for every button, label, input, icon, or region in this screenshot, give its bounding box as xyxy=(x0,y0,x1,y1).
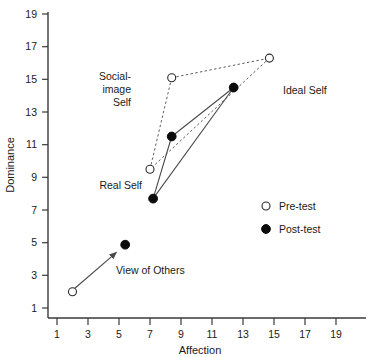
axis-lines xyxy=(48,12,366,318)
x-axis-tick-labels: 1 3 5 7 9 11 13 15 17 19 xyxy=(54,328,342,340)
label-view-of-others: View of Others xyxy=(116,264,185,276)
post-test-markers[interactable] xyxy=(121,83,238,249)
marker-pre-real-self[interactable] xyxy=(146,165,154,173)
marker-post-ideal-self[interactable] xyxy=(229,83,238,92)
x-axis-title: Affection xyxy=(179,344,222,356)
pre-line-real-to-social xyxy=(150,78,172,170)
legend-item-pre-test[interactable]: Pre-test xyxy=(262,200,316,212)
y-tick-label-1: 1 xyxy=(31,302,37,314)
x-tick-label-17: 17 xyxy=(299,328,311,340)
label-social-image-self-line3: Self xyxy=(113,96,131,108)
y-tick-label-3: 3 xyxy=(31,269,37,281)
y-tick-label-11: 11 xyxy=(26,138,37,150)
x-tick-label-5: 5 xyxy=(116,328,122,340)
label-social-image-self-line1: Social- xyxy=(99,70,132,82)
y-tick-label-5: 5 xyxy=(31,236,37,248)
x-tick-label-1: 1 xyxy=(54,328,60,340)
x-axis-ticks xyxy=(57,318,336,325)
y-axis-ticks xyxy=(42,14,48,308)
label-real-self: Real Self xyxy=(99,179,142,191)
point-annotations: Social- image Self Real Self Ideal Self … xyxy=(99,70,327,276)
y-tick-label-15: 15 xyxy=(25,73,37,85)
post-line-ideal-to-real xyxy=(153,88,234,199)
x-tick-label-11: 11 xyxy=(207,328,218,340)
chart-canvas: 19 17 15 13 11 9 7 5 3 1 1 3 5 xyxy=(0,0,375,357)
y-tick-label-19: 19 xyxy=(25,8,37,20)
legend: Pre-test Post-test xyxy=(262,200,321,235)
y-axis-title: Dominance xyxy=(4,137,16,193)
pre-line-ideal-to-real xyxy=(150,58,269,169)
x-tick-label-13: 13 xyxy=(237,328,249,340)
legend-marker-post-test xyxy=(262,225,271,234)
marker-post-social-image-self[interactable] xyxy=(167,132,176,141)
y-axis-tick-labels: 19 17 15 13 11 9 7 5 3 1 xyxy=(25,8,37,314)
x-tick-label-3: 3 xyxy=(85,328,91,340)
y-tick-label-13: 13 xyxy=(25,106,37,118)
x-tick-label-19: 19 xyxy=(330,328,342,340)
marker-post-view-of-others[interactable] xyxy=(121,240,130,249)
post-test-connector-triangle xyxy=(153,88,234,199)
pre-test-connector-triangle xyxy=(150,58,269,169)
legend-label-post-test: Post-test xyxy=(279,223,321,235)
y-tick-label-9: 9 xyxy=(31,171,37,183)
marker-post-real-self[interactable] xyxy=(149,194,158,203)
legend-label-pre-test: Pre-test xyxy=(279,200,316,212)
y-tick-label-17: 17 xyxy=(25,40,37,52)
scatter-plot: 19 17 15 13 11 9 7 5 3 1 1 3 5 xyxy=(0,0,375,357)
marker-pre-ideal-self[interactable] xyxy=(265,54,273,62)
post-line-social-to-ideal xyxy=(172,88,234,137)
marker-pre-social-image-self[interactable] xyxy=(168,74,176,82)
label-ideal-self: Ideal Self xyxy=(283,84,327,96)
y-tick-label-7: 7 xyxy=(31,204,37,216)
legend-marker-pre-test xyxy=(262,202,270,210)
label-social-image-self-line2: image xyxy=(102,83,131,95)
view-of-others-arrow xyxy=(74,252,117,289)
x-tick-label-15: 15 xyxy=(268,328,280,340)
marker-pre-view-of-others[interactable] xyxy=(69,288,77,296)
pre-line-social-to-ideal xyxy=(172,58,270,78)
x-tick-label-7: 7 xyxy=(147,328,153,340)
x-tick-label-9: 9 xyxy=(178,328,184,340)
legend-item-post-test[interactable]: Post-test xyxy=(262,223,321,235)
